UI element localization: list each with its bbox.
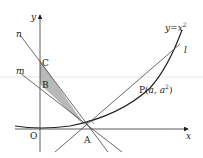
line-l-label: l <box>184 45 187 55</box>
point-c-label: C <box>42 58 49 68</box>
point-p-label: P(a, a2) <box>139 83 172 95</box>
point-b-label: B <box>42 80 49 90</box>
origin-label: O <box>30 131 37 141</box>
curve-label: y=x2 <box>164 21 187 33</box>
parabola-tangent-diagram: y x O n m l C B A P(a, a2) y=x2 <box>0 0 203 158</box>
x-axis-label: x <box>186 131 191 141</box>
line-n-label: n <box>16 29 22 39</box>
line-l <box>55 44 180 152</box>
point-a-label: A <box>83 135 91 145</box>
y-axis-label: y <box>30 12 37 22</box>
line-m-label: m <box>16 66 25 76</box>
